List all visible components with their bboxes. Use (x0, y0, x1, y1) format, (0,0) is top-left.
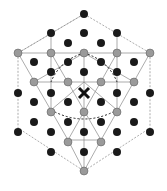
crystal-lattice-diagram (0, 0, 167, 191)
